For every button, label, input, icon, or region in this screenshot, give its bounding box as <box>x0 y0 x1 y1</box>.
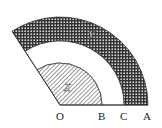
region-label-x: X <box>63 81 72 93</box>
point-label-c: C <box>120 110 127 122</box>
point-label-a: A <box>143 110 151 122</box>
point-label-o: O <box>56 110 64 122</box>
point-label-b: B <box>98 110 105 122</box>
sector-diagram: X Y O B C A <box>0 0 162 128</box>
